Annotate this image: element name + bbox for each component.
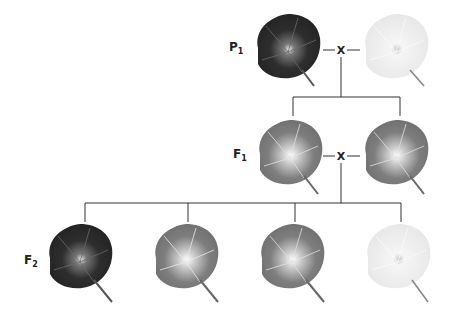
cross-symbol-f1: X xyxy=(337,150,345,163)
cross-symbol-p1: X xyxy=(337,44,345,57)
flower-f2-medium-1 xyxy=(155,224,218,302)
flower-f1-2 xyxy=(365,120,428,194)
label-p1: P1 xyxy=(229,40,243,56)
flower-f1-1 xyxy=(259,120,322,194)
label-f1: F1 xyxy=(233,147,247,163)
diagram-lines xyxy=(0,0,454,318)
flower-p1-white xyxy=(365,14,428,86)
flower-f2-medium-2 xyxy=(261,224,324,302)
flower-p1-purple xyxy=(257,14,320,86)
flower-f2-dark xyxy=(49,224,112,302)
flower-f2-white xyxy=(367,224,430,302)
genetics-cross-diagram: P1 F1 F2 X X xyxy=(0,0,454,318)
label-f2: F2 xyxy=(24,253,38,269)
